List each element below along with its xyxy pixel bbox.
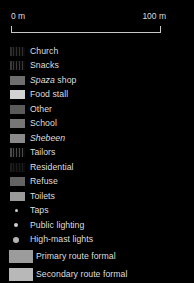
legend-item-label: Residential xyxy=(30,162,74,173)
legend-item-label: Taps xyxy=(30,205,49,216)
scale-bar-min-label: 0 m xyxy=(11,11,25,21)
legend-item-label: Primary route formal xyxy=(36,251,116,262)
legend-item[interactable]: Taps xyxy=(0,204,194,219)
legend-item[interactable]: Public lighting xyxy=(0,218,194,233)
legend-area-swatch xyxy=(10,177,25,186)
legend-swatch-cell xyxy=(0,247,36,265)
legend-item[interactable]: Food stall xyxy=(0,88,194,103)
legend-area-swatch xyxy=(10,47,25,56)
scale-bar-max-label: 100 m xyxy=(142,11,166,21)
legend-area-swatch xyxy=(10,105,25,114)
legend-swatch-cell xyxy=(0,59,30,74)
legend-item-label: High-mast lights xyxy=(30,234,93,245)
legend-swatch-cell xyxy=(0,88,30,103)
legend-swatch-cell xyxy=(0,189,30,204)
legend-item[interactable]: Refuse xyxy=(0,175,194,190)
legend-item[interactable]: Snacks xyxy=(0,59,194,74)
legend-swatch-cell xyxy=(0,102,30,117)
legend-route-swatch xyxy=(9,250,33,263)
legend-area-swatch xyxy=(10,76,25,85)
legend-item-label: Refuse xyxy=(30,176,58,187)
legend-swatch-cell xyxy=(0,44,30,59)
legend-swatch-cell xyxy=(0,73,30,88)
legend-point-marker-icon xyxy=(14,223,18,227)
legend-item-label: School xyxy=(30,118,57,129)
legend-item[interactable]: Primary route formal xyxy=(0,247,194,265)
legend-item[interactable]: Tailors xyxy=(0,146,194,161)
legend-item-label: Spaza shop xyxy=(30,75,76,86)
legend-item[interactable]: Secondary route formal xyxy=(0,265,194,283)
legend-item-label: Other xyxy=(30,104,52,115)
legend-item-label: Tailors xyxy=(30,147,55,158)
legend-swatch-cell xyxy=(0,117,30,132)
legend-item-label: Food stall xyxy=(30,89,68,100)
legend-swatch-cell xyxy=(0,265,36,283)
scale-bar: 0 m 100 m xyxy=(0,0,194,42)
legend-item[interactable]: Shebeen xyxy=(0,131,194,146)
scale-bar-labels: 0 m 100 m xyxy=(11,11,166,23)
legend-item[interactable]: Other xyxy=(0,102,194,117)
legend-item[interactable]: High-mast lights xyxy=(0,233,194,248)
legend-item-label: Public lighting xyxy=(30,220,84,231)
legend-swatch-cell xyxy=(0,146,30,161)
legend-item[interactable]: Church xyxy=(0,44,194,59)
legend-swatch-cell xyxy=(0,204,30,219)
legend-swatch-cell xyxy=(0,131,30,146)
scale-bar-rule xyxy=(11,26,161,33)
legend-area-swatch xyxy=(10,163,25,172)
legend-route-swatch xyxy=(9,268,33,281)
legend-item[interactable]: Residential xyxy=(0,160,194,175)
legend-item[interactable]: Toilets xyxy=(0,189,194,204)
legend-item-label: Snacks xyxy=(30,60,59,71)
legend-item[interactable]: School xyxy=(0,117,194,132)
legend-swatch-cell xyxy=(0,218,30,233)
legend-area-swatch xyxy=(10,192,25,201)
legend-item-label: Toilets xyxy=(30,191,55,202)
legend-area-swatch xyxy=(10,148,25,157)
legend-item-label: Shebeen xyxy=(30,133,65,144)
legend-area-swatch xyxy=(10,119,25,128)
legend-item-list: ChurchSnacksSpaza shopFood stallOtherSch… xyxy=(0,44,194,283)
legend-point-marker-icon xyxy=(15,209,18,212)
legend-swatch-cell xyxy=(0,233,30,248)
legend-item-label: Secondary route formal xyxy=(36,269,127,280)
legend-point-marker-icon xyxy=(13,237,19,243)
legend-item-label: Church xyxy=(30,46,58,57)
legend-item[interactable]: Spaza shop xyxy=(0,73,194,88)
legend-area-swatch xyxy=(10,134,25,143)
legend-area-swatch xyxy=(10,90,25,99)
legend-swatch-cell xyxy=(0,175,30,190)
legend-swatch-cell xyxy=(0,160,30,175)
legend-area-swatch xyxy=(10,61,25,70)
